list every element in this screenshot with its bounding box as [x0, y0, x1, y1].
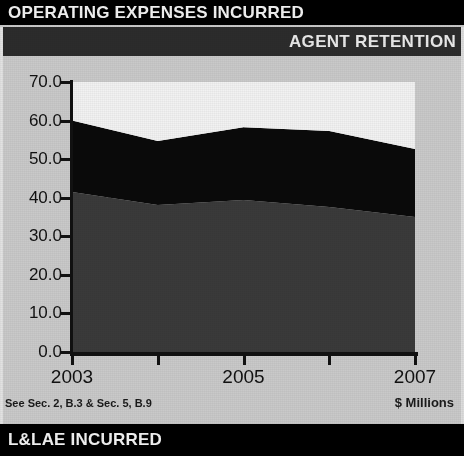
- area-series-bottom-band: [72, 192, 415, 352]
- x-axis-tick: [157, 356, 160, 365]
- y-axis-tick-label: 20.0: [29, 265, 62, 285]
- bottom-banner: L&LAE INCURRED: [0, 424, 464, 456]
- x-axis-tick: [243, 356, 246, 365]
- x-axis-tick: [328, 356, 331, 365]
- chart-area: 0.010.020.030.040.050.060.070.0 20032005…: [0, 56, 464, 424]
- y-axis-tick-label: 30.0: [29, 226, 62, 246]
- chart-title-banner: AGENT RETENTION: [3, 27, 461, 56]
- x-axis-tick: [414, 356, 417, 365]
- y-axis-tick-label: 50.0: [29, 149, 62, 169]
- plot-region: [72, 82, 415, 352]
- bottom-banner-title: L&LAE INCURRED: [8, 430, 162, 450]
- x-axis-tick-label: 2005: [222, 366, 264, 388]
- x-axis-tick: [71, 356, 74, 365]
- units-label: $ Millions: [395, 395, 454, 410]
- y-axis-tick-label: 0.0: [38, 342, 62, 362]
- x-axis-tick-label: 2007: [394, 366, 436, 388]
- y-axis-tick-label: 40.0: [29, 188, 62, 208]
- y-axis-tick-label: 70.0: [29, 72, 62, 92]
- y-axis-tick-label: 10.0: [29, 303, 62, 323]
- top-banner: OPERATING EXPENSES INCURRED: [0, 0, 464, 25]
- chart-title: AGENT RETENTION: [289, 32, 456, 52]
- scanned-chart-page: OPERATING EXPENSES INCURRED AGENT RETENT…: [0, 0, 464, 456]
- top-banner-title: OPERATING EXPENSES INCURRED: [8, 3, 304, 23]
- stacked-area-plot: [72, 82, 415, 352]
- source-note: See Sec. 2, B.3 & Sec. 5, B.9: [5, 397, 152, 409]
- y-axis-line: [70, 80, 73, 354]
- x-axis-tick-label: 2003: [51, 366, 93, 388]
- y-axis-tick-label: 60.0: [29, 111, 62, 131]
